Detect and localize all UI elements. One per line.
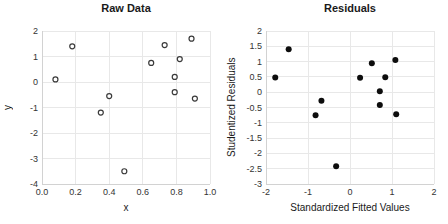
- y-tick-label: -2: [254, 148, 262, 158]
- data-point: [162, 43, 167, 48]
- x-tick-label: -1: [304, 187, 312, 197]
- data-point: [98, 110, 103, 115]
- x-tick-label: 1: [389, 187, 394, 197]
- data-point: [382, 74, 388, 80]
- data-point: [286, 46, 292, 52]
- x-tick-label: 0.6: [137, 187, 150, 197]
- data-point: [377, 88, 383, 94]
- data-point: [272, 75, 278, 81]
- y-tick-label: 0.5: [249, 72, 262, 82]
- data-point: [53, 77, 58, 82]
- data-point: [172, 74, 177, 79]
- y-tick-label: -0.5: [246, 103, 262, 113]
- y-tick-label: -3: [30, 154, 38, 164]
- data-point: [192, 96, 197, 101]
- y-tick-label: 1: [257, 57, 262, 67]
- data-point: [318, 98, 324, 104]
- scatter-plot: 0.00.20.40.60.81.0210-1-2-3-4: [0, 0, 224, 224]
- regression-diagnostic-plots: Raw Data y 0.00.20.40.60.81.0210-1-2-3-4…: [0, 0, 448, 224]
- y-tick-label: -4: [30, 179, 38, 189]
- x-tick-label: 0: [347, 187, 352, 197]
- residuals-chart: Residuals Studentized Residuals -2-10122…: [224, 0, 448, 224]
- x-tick-label: 1.0: [204, 187, 217, 197]
- x-tick-label: 0.2: [69, 187, 82, 197]
- raw-data-chart: Raw Data y 0.00.20.40.60.81.0210-1-2-3-4…: [0, 0, 224, 224]
- data-point: [357, 75, 363, 81]
- data-point: [189, 36, 194, 41]
- data-point: [369, 60, 375, 66]
- y-tick-label: -3: [254, 179, 262, 189]
- data-point: [122, 169, 127, 174]
- scatter-plot: -2-101221.510.50-0.5-1-1.5-2-2.5-3: [224, 0, 448, 224]
- data-point: [177, 57, 182, 62]
- x-tick-label: 0.4: [103, 187, 116, 197]
- y-tick-label: -2.5: [246, 164, 262, 174]
- x-tick-label: 2: [431, 187, 436, 197]
- data-point: [377, 102, 383, 108]
- y-tick-label: 2: [257, 26, 262, 36]
- x-tick-label: 0.8: [170, 187, 183, 197]
- x-tick-label: -2: [262, 187, 270, 197]
- data-point: [392, 57, 398, 63]
- data-point: [333, 163, 339, 169]
- data-point: [313, 112, 319, 118]
- y-tick-label: 2: [33, 26, 38, 36]
- y-tick-label: -1: [254, 118, 262, 128]
- data-point: [149, 60, 154, 65]
- x-axis-label: x: [42, 202, 210, 213]
- gridlines: [266, 31, 434, 184]
- gridlines: [42, 31, 210, 184]
- data-point: [107, 94, 112, 99]
- x-axis-label: Standardized Fitted Values: [266, 202, 434, 213]
- y-tick-label: 0: [257, 87, 262, 97]
- y-tick-label: -1.5: [246, 133, 262, 143]
- data-point: [70, 44, 75, 49]
- data-point: [393, 111, 399, 117]
- y-tick-label: 1.5: [249, 41, 262, 51]
- y-tick-label: 0: [33, 77, 38, 87]
- y-tick-label: -2: [30, 128, 38, 138]
- y-tick-label: 1: [33, 52, 38, 62]
- y-tick-label: -1: [30, 103, 38, 113]
- data-point: [172, 90, 177, 95]
